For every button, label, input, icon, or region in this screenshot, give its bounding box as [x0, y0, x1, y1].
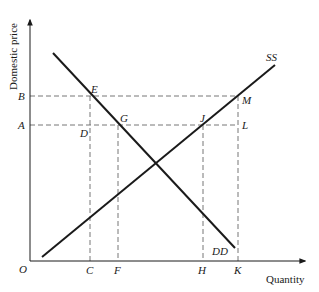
- demand-curve: [53, 53, 235, 248]
- point-label-d: D: [79, 127, 88, 139]
- price-label-a: A: [17, 119, 25, 131]
- point-label-e: E: [90, 83, 98, 95]
- y-axis-label: Domestic price: [7, 23, 19, 90]
- supply-curve: [42, 65, 275, 257]
- supply-curve-label: SS: [266, 51, 278, 63]
- point-label-m: M: [241, 94, 252, 106]
- quantity-label-k: K: [233, 264, 242, 276]
- price-label-b: B: [18, 90, 25, 102]
- demand-curve-label: DD: [211, 245, 228, 257]
- quantity-label-c: C: [86, 264, 94, 276]
- quantity-label-f: F: [113, 264, 121, 276]
- point-label-g: G: [120, 112, 128, 124]
- x-axis-label: Quantity: [266, 273, 305, 285]
- point-label-l: L: [241, 119, 248, 131]
- origin-label: O: [19, 263, 27, 275]
- quantity-label-h: H: [197, 264, 207, 276]
- supply-demand-diagram: Domestic price Quantity O B A C F H K E …: [0, 0, 319, 292]
